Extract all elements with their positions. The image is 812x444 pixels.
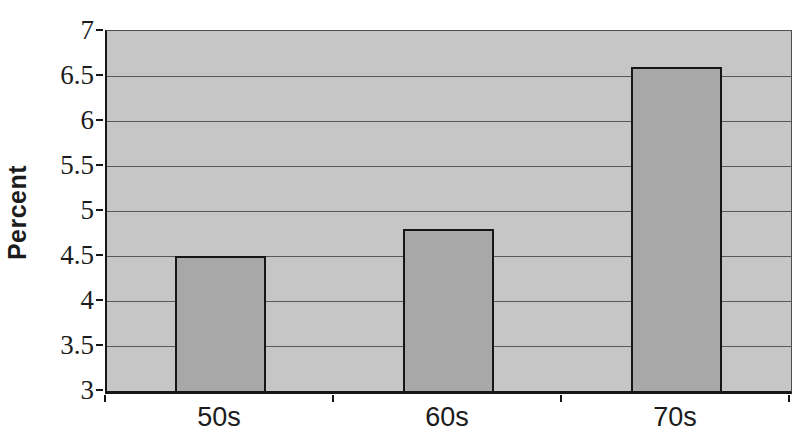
y-tick-6 bbox=[96, 119, 103, 121]
x-tick-2 bbox=[560, 395, 562, 402]
x-tick-3 bbox=[788, 395, 790, 402]
y-tick-6.5 bbox=[96, 74, 103, 76]
y-tick-5 bbox=[96, 209, 103, 211]
y-tick-label-7: 7 bbox=[4, 17, 94, 44]
y-tick-label-5: 5 bbox=[4, 197, 94, 224]
bar-chart: Percent 33.544.555.566.57 50s60s70s bbox=[0, 0, 812, 444]
y-tick-4 bbox=[96, 299, 103, 301]
plot-area bbox=[105, 30, 792, 394]
x-tick-label-50s: 50s bbox=[197, 403, 241, 433]
y-tick-label-5.5: 5.5 bbox=[4, 152, 94, 179]
x-tick-label-60s: 60s bbox=[425, 403, 469, 433]
y-tick-label-6.5: 6.5 bbox=[4, 62, 94, 89]
y-tick-4.5 bbox=[96, 254, 103, 256]
y-tick-3.5 bbox=[96, 344, 103, 346]
y-tick-label-6: 6 bbox=[4, 107, 94, 134]
x-tick-1 bbox=[332, 395, 334, 402]
y-tick-3 bbox=[96, 389, 103, 391]
y-tick-7 bbox=[96, 29, 103, 31]
x-tick-0 bbox=[104, 395, 106, 402]
y-tick-label-3.5: 3.5 bbox=[4, 332, 94, 359]
y-tick-5.5 bbox=[96, 164, 103, 166]
bar-50s bbox=[175, 256, 266, 391]
bar-70s bbox=[631, 67, 722, 391]
y-tick-label-4.5: 4.5 bbox=[4, 242, 94, 269]
y-tick-label-3: 3 bbox=[4, 377, 94, 404]
bar-60s bbox=[403, 229, 494, 391]
plot-inner bbox=[107, 31, 791, 391]
y-tick-label-4: 4 bbox=[4, 287, 94, 314]
x-tick-label-70s: 70s bbox=[653, 403, 697, 433]
